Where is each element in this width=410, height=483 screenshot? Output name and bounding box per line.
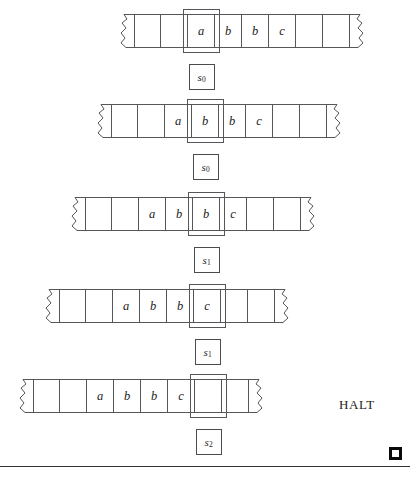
tape: abbc <box>69 197 317 231</box>
state-subscript: 1 <box>207 258 211 267</box>
tape-cell <box>222 379 249 413</box>
tape: abbc <box>95 104 343 138</box>
tape-cell: a <box>113 289 140 323</box>
tape-torn-edge-right-icon <box>301 197 317 231</box>
tape-cell: b <box>192 104 219 138</box>
tape-cell: b <box>215 14 242 48</box>
tape-cell: c <box>246 104 273 138</box>
end-of-proof-tombstone-icon <box>389 447 402 460</box>
state-subscript: 0 <box>206 165 210 174</box>
state-subscript: 0 <box>202 75 206 84</box>
tape-cell: c <box>220 197 247 231</box>
tape-cell: c <box>269 14 296 48</box>
tape-cell <box>59 289 86 323</box>
state-box: s0 <box>193 154 219 180</box>
tape-cell <box>60 379 87 413</box>
tape-cell: a <box>165 104 192 138</box>
tape-cell: b <box>167 289 194 323</box>
tape-cell: b <box>166 197 193 231</box>
state-subscript: 2 <box>209 440 213 449</box>
tape-torn-edge-left-icon <box>69 197 85 231</box>
tape-cell <box>248 289 275 323</box>
state-box: s0 <box>189 64 215 90</box>
tape-torn-edge-right-icon <box>249 379 265 413</box>
tape-cell: c <box>194 289 221 323</box>
tape-torn-edge-left-icon <box>95 104 111 138</box>
tape-cell <box>274 197 301 231</box>
tape-torn-edge-right-icon <box>275 289 291 323</box>
tape: abbc <box>17 379 265 413</box>
tape-cell: b <box>140 289 167 323</box>
tape-cell <box>86 289 113 323</box>
tape-cell <box>134 14 161 48</box>
tape-cell <box>112 197 139 231</box>
tape-cell: b <box>193 197 220 231</box>
tape-cell <box>195 379 222 413</box>
tape-cell: b <box>114 379 141 413</box>
state-box: s2 <box>196 429 222 455</box>
state-subscript: 1 <box>208 350 212 359</box>
tape-cell <box>221 289 248 323</box>
tape-cell <box>85 197 112 231</box>
tape-cell <box>138 104 165 138</box>
tape-cell: b <box>242 14 269 48</box>
tape-cell <box>161 14 188 48</box>
tape-cell: a <box>87 379 114 413</box>
tape-cell <box>300 104 327 138</box>
state-box: s1 <box>195 339 221 365</box>
turing-machine-trace-figure: abbcs2abbcs1abbcs1abbcs0abbcs0 HALT <box>0 0 410 483</box>
tape-cell: c <box>168 379 195 413</box>
tape: abbc <box>118 14 366 48</box>
tape-torn-edge-right-icon <box>350 14 366 48</box>
state-box: s1 <box>194 247 220 273</box>
tape-torn-edge-left-icon <box>43 289 59 323</box>
tape-torn-edge-right-icon <box>327 104 343 138</box>
tape-cell: a <box>188 14 215 48</box>
tape-cell: a <box>139 197 166 231</box>
tape-torn-edge-left-icon <box>17 379 33 413</box>
tape: abbc <box>43 289 291 323</box>
tape-cell <box>33 379 60 413</box>
tape-cell <box>323 14 350 48</box>
bottom-horizontal-rule <box>0 466 410 467</box>
tape-cell <box>247 197 274 231</box>
tape-cell: b <box>141 379 168 413</box>
tape-cell <box>296 14 323 48</box>
tape-cell <box>111 104 138 138</box>
tape-cell: b <box>219 104 246 138</box>
halt-label: HALT <box>339 397 375 413</box>
tape-cell <box>273 104 300 138</box>
tape-torn-edge-left-icon <box>118 14 134 48</box>
